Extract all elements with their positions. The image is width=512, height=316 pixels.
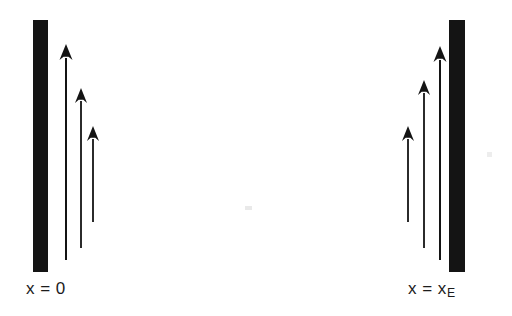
left-arrow-group [60,44,100,260]
x-equals-xe-subscript: E [447,286,455,300]
x-equals-xe-label: x = xE [408,280,455,297]
left-arrow-1-head [60,44,73,60]
right-arrow-3 [434,46,447,260]
right-arrow-3-head [434,46,447,62]
left-arrow-2-head [75,88,87,103]
right-arrow-1-head [402,126,414,141]
diagram-canvas: x = 0 x = xE [0,0,512,316]
right-arrow-2 [418,80,430,248]
left-arrow-3 [87,126,99,222]
x-equals-zero-text: x = 0 [26,279,66,298]
right-arrow-1 [402,126,414,222]
left-arrow-3-head [87,126,99,141]
left-arrow-1 [60,44,73,260]
right-arrow-2-head [418,80,430,95]
arrow-layer [0,0,512,316]
x-equals-zero-label: x = 0 [26,280,66,297]
scan-smudge-right [487,152,492,157]
x-equals-xe-text: x = x [408,279,447,298]
scan-smudge-center [245,206,252,210]
left-arrow-2 [75,88,87,248]
right-arrow-group [402,46,447,260]
